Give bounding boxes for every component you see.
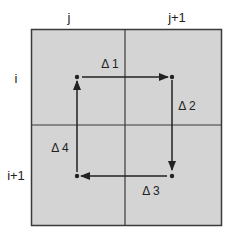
edge-label-delta-3: Δ 3 — [142, 184, 160, 198]
column-label-j: j — [67, 10, 71, 25]
point-top-left — [75, 75, 79, 79]
edge-label-delta-2: Δ 2 — [178, 99, 196, 113]
point-bottom-left — [75, 174, 79, 178]
row-label-i: i — [15, 71, 18, 86]
edge-label-delta-1: Δ 1 — [101, 57, 119, 71]
point-bottom-right — [170, 174, 174, 178]
column-label-j-plus-1: j+1 — [167, 10, 186, 25]
point-top-right — [170, 75, 174, 79]
grid-box — [32, 30, 222, 226]
row-label-i-plus-1: i+1 — [7, 168, 25, 183]
edge-label-delta-4: Δ 4 — [51, 141, 69, 155]
loop-diagram: j j+1 i i+1 Δ 1 Δ 2 Δ 3 Δ 4 — [0, 0, 232, 238]
